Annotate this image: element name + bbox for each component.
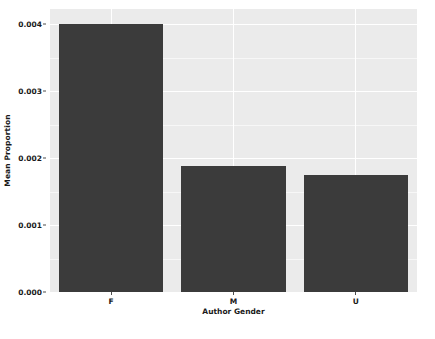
x-axis-tick-label-u: U [353,297,359,306]
y-axis-tick-label: 0.003 [18,87,42,96]
x-axis-tick-mark [233,292,234,295]
x-axis-tick-label-m: M [230,297,237,306]
x-axis-title: Author Gender [50,307,417,316]
bar-u [304,175,409,292]
x-axis-tick-label-f: F [109,297,114,306]
y-axis-tick-label: 0.004 [18,20,42,29]
y-axis-tick-mark [43,91,46,92]
bar-f [59,24,164,292]
y-axis-tick-mark [43,225,46,226]
y-axis-tick-mark [43,292,46,293]
y-axis-tick-label: 0.002 [18,154,42,163]
bar-chart: Mean Proportion 0.0000.0010.0020.0030.00… [0,0,435,339]
y-axis-tick-labels: 0.0000.0010.0020.0030.004 [14,0,46,339]
plot-panel [50,9,417,292]
y-axis-tick-mark [43,24,46,25]
y-axis-tick-label: 0.001 [18,221,42,230]
y-axis-title: Mean Proportion [0,0,14,301]
y-axis-title-text: Mean Proportion [3,114,12,186]
y-axis-tick-mark [43,158,46,159]
y-axis-tick-label: 0.000 [18,288,42,297]
x-axis-tick-mark [355,292,356,295]
bar-m [181,166,286,292]
x-axis-tick-mark [111,292,112,295]
